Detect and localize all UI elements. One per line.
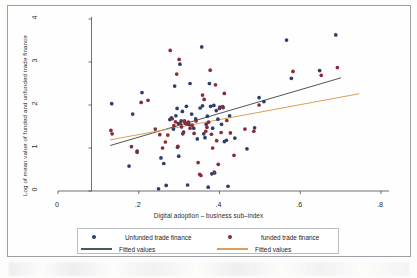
y-tick-label-3: 3 xyxy=(30,55,39,67)
data-point-s1-0 xyxy=(109,129,113,133)
legend-label-funded: funded trade finance xyxy=(261,234,319,241)
data-point-s0-37 xyxy=(206,114,210,118)
data-point-s1-36 xyxy=(207,120,211,124)
data-point-s0-4 xyxy=(140,91,144,95)
data-point-s0-39 xyxy=(208,82,212,86)
data-point-s0-48 xyxy=(220,123,224,127)
data-point-s1-29 xyxy=(196,161,200,165)
data-point-s1-13 xyxy=(172,124,176,128)
y-axis-label: Log of mean value of funded and unfunded… xyxy=(21,35,28,196)
chart-frame xyxy=(7,5,411,257)
legend-item-unfunded-trade-finance: Unfunded trade finance xyxy=(92,231,191,243)
data-point-s1-52 xyxy=(252,129,256,133)
page-scan-shadow xyxy=(9,262,409,276)
data-point-s1-4 xyxy=(139,101,143,105)
data-point-s0-51 xyxy=(225,138,229,142)
legend-marker-funded-dot xyxy=(228,235,232,239)
legend-marker-funded-fit-line xyxy=(217,248,248,249)
data-point-s1-7 xyxy=(158,133,162,137)
data-point-s1-44 xyxy=(218,107,222,111)
data-point-s0-0 xyxy=(110,102,114,106)
y-tick-label-0: 0 xyxy=(30,184,39,196)
data-point-s1-46 xyxy=(221,105,225,109)
data-point-s0-43 xyxy=(212,104,216,108)
data-point-s1-8 xyxy=(161,146,165,150)
data-point-s0-45 xyxy=(214,109,218,113)
data-point-s1-49 xyxy=(229,131,233,135)
data-point-s1-50 xyxy=(232,153,236,157)
data-point-s1-10 xyxy=(166,133,170,137)
data-point-s0-17 xyxy=(177,154,181,158)
data-point-s0-6 xyxy=(159,156,163,160)
data-point-s1-55 xyxy=(319,73,323,77)
data-point-s0-60 xyxy=(290,76,294,80)
data-point-s1-48 xyxy=(225,119,229,123)
data-point-s1-17 xyxy=(177,58,181,62)
data-point-s0-42 xyxy=(211,126,215,130)
data-point-s1-38 xyxy=(210,132,214,136)
data-point-s0-18 xyxy=(178,62,182,66)
data-point-s1-34 xyxy=(204,129,208,133)
data-point-s1-19 xyxy=(180,125,184,129)
data-point-s0-12 xyxy=(173,84,177,88)
data-point-s1-54 xyxy=(291,70,295,74)
data-point-s0-56 xyxy=(253,126,257,130)
fit-line-0 xyxy=(110,78,340,146)
data-point-s0-11 xyxy=(172,127,176,131)
data-point-s1-35 xyxy=(205,126,209,130)
legend-item-fitted-values-unfunded: Fitted values xyxy=(81,243,155,255)
chart-legend: Unfunded trade finance funded trade fina… xyxy=(77,228,339,254)
data-point-s1-25 xyxy=(188,126,192,130)
data-point-s0-24 xyxy=(186,183,190,187)
data-point-s0-53 xyxy=(228,114,232,118)
data-point-s1-33 xyxy=(202,98,206,102)
legend-marker-unfunded-fit-line xyxy=(81,248,112,249)
y-tick-label-1: 1 xyxy=(30,141,39,153)
data-point-s1-41 xyxy=(214,83,218,87)
data-point-s1-39 xyxy=(211,146,215,150)
data-point-s1-56 xyxy=(336,66,340,70)
data-point-s0-2 xyxy=(131,112,135,116)
data-point-s1-11 xyxy=(168,49,172,53)
data-point-s1-6 xyxy=(153,127,157,131)
data-point-s1-31 xyxy=(199,174,203,178)
data-point-s1-47 xyxy=(222,92,226,96)
data-point-s0-30 xyxy=(195,137,199,141)
data-point-s0-46 xyxy=(216,117,220,121)
x-tick-label-0: 0 xyxy=(49,200,65,209)
data-point-s1-5 xyxy=(146,98,150,102)
data-point-s0-8 xyxy=(164,184,168,188)
x-tick-label-3: .6 xyxy=(291,200,307,209)
data-point-s1-1 xyxy=(110,132,114,136)
data-point-s0-23 xyxy=(185,104,189,108)
data-point-s1-15 xyxy=(175,72,179,76)
data-point-s0-20 xyxy=(181,110,185,114)
data-point-s1-20 xyxy=(181,132,185,136)
x-tick-label-4: .8 xyxy=(372,200,388,209)
scatter-plot-figure: Log of mean value of funded and unfunded… xyxy=(0,0,417,278)
data-point-s1-24 xyxy=(187,120,191,124)
legend-label-unfunded: Unfunded trade finance xyxy=(125,234,191,241)
data-point-s0-38 xyxy=(206,185,210,189)
data-point-s0-14 xyxy=(175,107,179,111)
data-point-s0-26 xyxy=(188,82,192,86)
data-point-s1-37 xyxy=(208,68,212,72)
data-point-s1-9 xyxy=(164,140,168,144)
data-point-s0-52 xyxy=(226,184,230,188)
legend-label-fitted-unfunded: Fitted values xyxy=(119,246,155,253)
data-point-s0-5 xyxy=(157,187,161,191)
data-point-s1-45 xyxy=(219,131,223,135)
data-point-s0-55 xyxy=(245,147,249,151)
data-point-s1-32 xyxy=(201,93,205,97)
data-point-s0-40 xyxy=(209,104,213,108)
data-point-s1-27 xyxy=(192,132,196,136)
data-point-s0-35 xyxy=(203,136,207,140)
data-point-s0-54 xyxy=(233,136,237,140)
data-point-s1-2 xyxy=(130,145,134,149)
data-point-s0-32 xyxy=(200,45,204,49)
legend-item-funded-trade-finance: funded trade finance xyxy=(228,231,319,243)
data-point-s0-13 xyxy=(174,114,178,118)
data-point-s1-53 xyxy=(257,103,261,107)
data-point-s1-16 xyxy=(176,144,180,148)
data-point-s1-43 xyxy=(216,162,220,166)
